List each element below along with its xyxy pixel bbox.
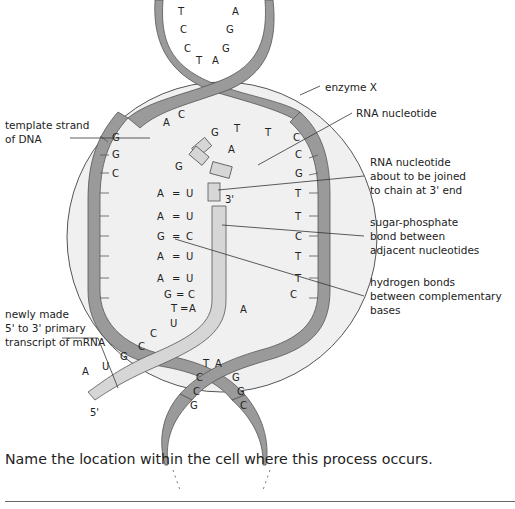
answer-line[interactable] xyxy=(5,501,515,502)
rna-nucleotide-c-label: C xyxy=(178,109,185,120)
svg-text:A: A xyxy=(189,303,196,314)
svg-text:T: T xyxy=(294,211,302,222)
svg-text:A: A xyxy=(240,304,247,315)
svg-text:A: A xyxy=(157,251,164,262)
base-top-right-1: A xyxy=(232,6,239,17)
svg-text:A: A xyxy=(157,188,164,199)
svg-text:A: A xyxy=(82,366,89,377)
base-bottom-right-4: C xyxy=(240,400,247,411)
base-top-left-3: C xyxy=(184,43,191,54)
rna-nucleotide-joining-label: RNA nucleotideabout to be joinedto chain… xyxy=(370,156,466,196)
transcription-diagram: T C C T A G G A A G G C C G A G T A=U A=… xyxy=(0,0,515,509)
strand-continuation-dashes xyxy=(173,470,270,490)
base-bottom-left-4: G xyxy=(190,400,198,411)
template-base-4: C xyxy=(112,168,119,179)
svg-text:G: G xyxy=(157,231,165,242)
three-prime-label: 3' xyxy=(225,194,234,205)
base-top-right-4: A xyxy=(212,55,219,66)
svg-text:G: G xyxy=(295,168,303,179)
svg-text:=: = xyxy=(176,289,184,300)
rna-nucleotide-label: RNA nucleotide xyxy=(356,107,437,119)
svg-text:T: T xyxy=(294,273,302,284)
base-bottom-right-3: G xyxy=(237,386,245,397)
five-prime-label: 5' xyxy=(90,407,99,418)
svg-text:C: C xyxy=(138,341,145,352)
base-top-left-2: C xyxy=(180,24,187,35)
base-top-right-2: G xyxy=(226,24,234,35)
base-top-left-4: T xyxy=(195,55,203,66)
rna-nucleotide-a-label: A xyxy=(228,144,235,155)
svg-text:T: T xyxy=(294,251,302,262)
rna-nucleotide-g-label: G xyxy=(175,161,183,172)
svg-text:C: C xyxy=(150,328,157,339)
template-base-3: G xyxy=(112,149,120,160)
base-bottom-left-1: T xyxy=(202,358,210,369)
svg-text:C: C xyxy=(188,289,195,300)
svg-text:G: G xyxy=(120,351,128,362)
svg-text:U: U xyxy=(186,188,193,199)
svg-text:U: U xyxy=(186,211,193,222)
svg-text:=: = xyxy=(172,273,180,284)
base-bottom-left-3: C xyxy=(193,386,200,397)
svg-text:U: U xyxy=(186,251,193,262)
base-bottom-left-2: C xyxy=(196,372,203,383)
sugar-phosphate-label: sugar-phosphatebond betweenadjacent nucl… xyxy=(370,216,479,256)
enzyme-x-label: enzyme X xyxy=(325,81,377,93)
svg-text:=: = xyxy=(180,303,188,314)
svg-text:G: G xyxy=(164,289,172,300)
svg-text:T: T xyxy=(170,303,178,314)
base-top-right-3: G xyxy=(222,43,230,54)
svg-text:=: = xyxy=(172,251,180,262)
hydrogen-bonds-label: hydrogen bondsbetween complementarybases xyxy=(370,276,502,316)
svg-text:U: U xyxy=(186,273,193,284)
svg-text:T: T xyxy=(264,127,272,138)
svg-text:C: C xyxy=(295,149,302,160)
svg-text:T: T xyxy=(294,188,302,199)
template-base-1: A xyxy=(163,117,170,128)
svg-text:A: A xyxy=(157,273,164,284)
base-top-left-1: T xyxy=(177,6,185,17)
svg-text:C: C xyxy=(290,289,297,300)
svg-text:C: C xyxy=(293,132,300,143)
svg-text:U: U xyxy=(170,318,177,329)
base-bottom-right-1: A xyxy=(215,358,222,369)
svg-text:=: = xyxy=(172,188,180,199)
rna-nucleotide-joining xyxy=(208,183,220,201)
svg-text:C: C xyxy=(295,231,302,242)
svg-text:=: = xyxy=(172,211,180,222)
coding-base-g: G xyxy=(211,127,219,138)
base-bottom-right-2: G xyxy=(232,372,240,383)
template-base-2: G xyxy=(112,132,120,143)
svg-text:C: C xyxy=(186,231,193,242)
coding-top-t: T xyxy=(233,123,241,134)
svg-text:A: A xyxy=(157,211,164,222)
template-strand-label: template strandof DNA xyxy=(5,119,89,145)
question-text: Name the location within the cell where … xyxy=(5,451,433,467)
